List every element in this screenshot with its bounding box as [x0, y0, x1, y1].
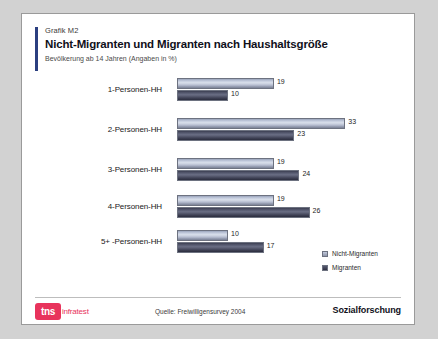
- legend-label: Migranten: [332, 264, 361, 271]
- chart-subtitle: Bevölkerung ab 14 Jahren (Angaben in %): [45, 54, 401, 64]
- legend-item-migranten: Migranten: [322, 264, 412, 271]
- category-label: 5+ -Personen-HH: [22, 237, 162, 246]
- category-label: 2-Personen-HH: [22, 125, 162, 134]
- legend-item-nicht-migranten: Nicht-Migranten: [322, 250, 412, 257]
- bar-group: 2-Personen-HH3323: [22, 116, 416, 146]
- bar-light: [177, 230, 228, 241]
- bar-dark: [177, 242, 264, 253]
- department-label: Sozialforschung: [332, 305, 401, 315]
- header-accent-bar: [35, 27, 38, 71]
- bar-value-label: 24: [302, 170, 310, 177]
- bar-value-label: 23: [297, 130, 305, 137]
- footer-divider: [35, 297, 401, 298]
- category-label: 3-Personen-HH: [22, 165, 162, 174]
- chart-kicker: Grafik M2: [45, 26, 401, 36]
- bar-group: 3-Personen-HH1924: [22, 156, 416, 186]
- legend-label: Nicht-Migranten: [332, 250, 378, 257]
- bar-light: [177, 158, 274, 169]
- category-label: 4-Personen-HH: [22, 202, 162, 211]
- chart-header: Grafik M2 Nicht-Migranten und Migranten …: [35, 26, 401, 64]
- chart-title: Nicht-Migranten und Migranten nach Haush…: [45, 37, 401, 52]
- bar-group: 4-Personen-HH1926: [22, 193, 416, 223]
- category-label: 1-Personen-HH: [22, 85, 162, 94]
- chart-footer: tns infratest Quelle: Freiwilligensurvey…: [35, 302, 401, 324]
- bar-value-label: 17: [267, 242, 275, 249]
- bar-light: [177, 195, 274, 206]
- chart-card: Grafik M2 Nicht-Migranten und Migranten …: [21, 13, 415, 325]
- bar-dark: [177, 130, 294, 141]
- bar-value-label: 10: [231, 90, 239, 97]
- legend-swatch-light-icon: [322, 251, 328, 257]
- bar-dark: [177, 90, 228, 101]
- infratest-wordmark: infratest: [62, 307, 89, 316]
- bar-value-label: 19: [277, 158, 285, 165]
- bar-light: [177, 78, 274, 89]
- bar-value-label: 26: [313, 207, 321, 214]
- bar-value-label: 10: [231, 230, 239, 237]
- bar-light: [177, 118, 345, 129]
- bar-dark: [177, 207, 310, 218]
- chart-legend: Nicht-Migranten Migranten: [322, 250, 412, 278]
- bar-dark: [177, 170, 299, 181]
- bar-value-label: 33: [348, 118, 356, 125]
- source-note: Quelle: Freiwilligensurvey 2004: [155, 308, 245, 315]
- tns-infratest-logo: tns infratest: [35, 303, 89, 320]
- legend-swatch-dark-icon: [322, 265, 328, 271]
- tns-logo-mark: tns: [35, 303, 61, 320]
- bar-value-label: 19: [277, 195, 285, 202]
- bar-group: 1-Personen-HH1910: [22, 76, 416, 106]
- bar-value-label: 19: [277, 78, 285, 85]
